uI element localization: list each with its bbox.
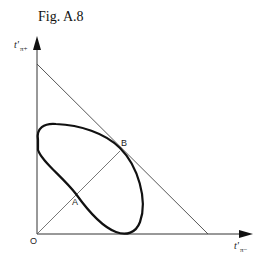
origin-label: O bbox=[30, 236, 37, 246]
y-axis-label: t' bbox=[14, 39, 20, 50]
x-axis-label: t' bbox=[234, 240, 240, 251]
y-axis-arrow-icon bbox=[33, 36, 41, 50]
diagonal-line-OB bbox=[37, 151, 120, 234]
y-axis-subscript: π+ bbox=[20, 45, 28, 53]
diagram-canvas: O A B t' π+ t' π− bbox=[0, 0, 264, 260]
x-axis-arrow-icon bbox=[239, 230, 253, 238]
point-A-label: A bbox=[72, 197, 78, 207]
point-B-label: B bbox=[121, 138, 127, 148]
x-axis-subscript: π− bbox=[240, 246, 248, 254]
